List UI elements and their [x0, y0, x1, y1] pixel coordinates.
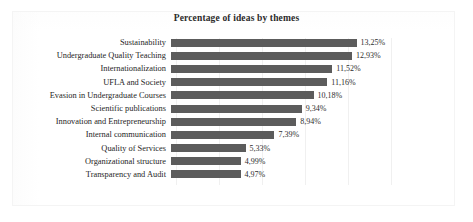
- bar-track: 12,93%: [171, 49, 443, 62]
- bar: [171, 65, 332, 73]
- category-label: Quality of Services: [0, 144, 171, 153]
- bar: [171, 170, 241, 178]
- value-label: 13,25%: [361, 38, 386, 47]
- value-label: 8,94%: [300, 117, 321, 126]
- bar-row: Scientific publications9,34%: [0, 102, 443, 115]
- bar: [171, 91, 314, 99]
- bar: [171, 78, 327, 86]
- category-label: UFLA and Society: [0, 78, 171, 87]
- bar-track: 8,94%: [171, 115, 443, 128]
- value-label: 9,34%: [306, 104, 327, 113]
- value-label: 7,39%: [278, 130, 299, 139]
- chart-plot-area: Sustainability13,25%Undergraduate Qualit…: [0, 36, 443, 188]
- category-label: Organizational structure: [0, 157, 171, 166]
- bar-track: 13,25%: [171, 36, 443, 49]
- bar-track: 11,52%: [171, 62, 443, 75]
- value-label: 12,93%: [356, 51, 381, 60]
- value-label: 11,52%: [336, 64, 360, 73]
- bar-track: 4,99%: [171, 155, 443, 168]
- category-label: Transparency and Audit: [0, 170, 171, 179]
- bar-track: 11,16%: [171, 76, 443, 89]
- value-label: 4,97%: [245, 170, 266, 179]
- category-label: Innovation and Entrepreneurship: [0, 117, 171, 126]
- bar-row: Evasion in Undergraduate Courses10,18%: [0, 89, 443, 102]
- bar-track: 5,33%: [171, 142, 443, 155]
- bar-row: UFLA and Society11,16%: [0, 76, 443, 89]
- bar-row: Internationalization11,52%: [0, 62, 443, 75]
- value-label: 11,16%: [331, 78, 355, 87]
- value-label: 5,33%: [250, 144, 271, 153]
- bar: [171, 131, 274, 139]
- category-label: Evasion in Undergraduate Courses: [0, 91, 171, 100]
- bar-row: Quality of Services5,33%: [0, 142, 443, 155]
- category-label: Internal communication: [0, 130, 171, 139]
- bar: [171, 39, 357, 47]
- category-label: Sustainability: [0, 38, 171, 47]
- bar-row: Internal communication7,39%: [0, 128, 443, 141]
- bar-track: 4,97%: [171, 168, 443, 181]
- category-label: Internationalization: [0, 64, 171, 73]
- bar-track: 10,18%: [171, 89, 443, 102]
- bar-track: 9,34%: [171, 102, 443, 115]
- value-label: 4,99%: [245, 157, 266, 166]
- bar: [171, 144, 246, 152]
- chart-title: Percentage of ideas by themes: [0, 13, 473, 23]
- value-label: 10,18%: [318, 91, 343, 100]
- bar: [171, 157, 241, 165]
- category-label: Undergraduate Quality Teaching: [0, 51, 171, 60]
- bar-row: Innovation and Entrepreneurship8,94%: [0, 115, 443, 128]
- bar-row: Sustainability13,25%: [0, 36, 443, 49]
- bar-row: Undergraduate Quality Teaching12,93%: [0, 49, 443, 62]
- bar: [171, 52, 352, 60]
- bar: [171, 105, 302, 113]
- category-label: Scientific publications: [0, 104, 171, 113]
- bar-rows-container: Sustainability13,25%Undergraduate Qualit…: [0, 36, 443, 181]
- bar-row: Organizational structure4,99%: [0, 155, 443, 168]
- bar-row: Transparency and Audit4,97%: [0, 168, 443, 181]
- bar-track: 7,39%: [171, 128, 443, 141]
- bar: [171, 118, 296, 126]
